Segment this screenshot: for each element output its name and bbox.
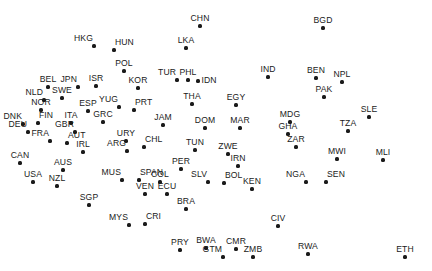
scatter-point-label: COL xyxy=(151,170,169,179)
scatter-point-label: PER xyxy=(172,157,190,166)
scatter-dot-marker xyxy=(86,109,89,112)
scatter-dot-marker xyxy=(81,150,84,153)
scatter-dot-marker xyxy=(346,129,349,132)
scatter-dot-marker xyxy=(112,48,115,51)
scatter-point-label: IDN xyxy=(202,76,217,85)
scatter-point-label: MWI xyxy=(328,147,346,156)
scatter-point-label: TUR xyxy=(158,68,176,77)
scatter-point-label: AUS xyxy=(54,158,72,167)
scatter-point-label: BRA xyxy=(177,197,195,206)
scatter-point-label: TZA xyxy=(340,119,357,128)
scatter-point-label: KEN xyxy=(243,177,261,186)
scatter-dot-marker xyxy=(321,26,324,29)
scatter-point-label: RWA xyxy=(298,242,318,251)
scatter-point-label: PRY xyxy=(171,238,189,247)
scatter-dot-marker xyxy=(179,167,182,170)
scatter-dot-marker xyxy=(304,180,307,183)
scatter-point-label: HKG xyxy=(74,34,93,43)
scatter-dot-marker xyxy=(190,102,193,105)
scatter-dot-marker xyxy=(206,180,209,183)
scatter-point-label: JPN xyxy=(60,75,77,84)
scatter-point-label: ESP xyxy=(79,99,97,108)
scatter-point-label: SLV xyxy=(191,170,207,179)
scatter-point-label: IRL xyxy=(76,140,90,149)
scatter-point-label: ZAR xyxy=(287,135,305,144)
scatter-point-label: KOR xyxy=(129,76,148,85)
scatter-point-label: YUG xyxy=(99,95,118,104)
scatter-point-label: MDG xyxy=(280,110,300,119)
scatter-point-label: GHA xyxy=(279,122,298,131)
scatter-dot-marker xyxy=(165,192,168,195)
scatter-dot-marker xyxy=(196,79,199,82)
scatter-point-label: GBR xyxy=(55,120,74,129)
scatter-dot-marker xyxy=(221,255,224,258)
scatter-dot-marker xyxy=(222,181,225,184)
scatter-dot-marker xyxy=(324,180,327,183)
scatter-point-label: MAR xyxy=(230,116,249,125)
scatter-point-label: URY xyxy=(117,129,135,138)
scatter-point-label: ETH xyxy=(396,245,414,254)
scatter-point-label: PAK xyxy=(316,85,333,94)
scatter-point-label: BGD xyxy=(314,16,333,25)
scatter-dot-marker xyxy=(266,75,269,78)
scatter-dot-marker xyxy=(87,203,90,206)
scatter-dot-marker xyxy=(193,148,196,151)
scatter-dot-marker xyxy=(314,76,317,79)
scatter-point-label: FRA xyxy=(32,129,50,138)
scatter-dot-marker xyxy=(65,141,68,144)
scatter-dot-marker xyxy=(367,115,370,118)
scatter-point-label: NZL xyxy=(49,174,66,183)
scatter-dot-marker xyxy=(76,85,79,88)
scatter-point-label: CIV xyxy=(271,214,286,223)
scatter-point-label: ISR xyxy=(89,74,104,83)
scatter-dot-marker xyxy=(226,152,229,155)
scatter-dot-marker xyxy=(335,157,338,160)
scatter-dot-marker xyxy=(238,126,241,129)
scatter-dot-marker xyxy=(92,44,95,47)
scatter-dot-marker xyxy=(184,46,187,49)
scatter-point-label: SEN xyxy=(327,170,345,179)
scatter-dot-marker xyxy=(203,126,206,129)
scatter-point-label: SGP xyxy=(80,193,98,202)
scatter-point-label: GRC xyxy=(93,110,112,119)
scatter-dot-marker xyxy=(125,149,128,152)
scatter-point-label: NPL xyxy=(333,70,350,79)
scatter-point-label: NGA xyxy=(286,170,305,179)
scatter-dot-marker xyxy=(18,161,21,164)
scatter-dot-marker xyxy=(60,96,63,99)
scatter-dot-marker xyxy=(251,255,254,258)
scatter-point-label: BEN xyxy=(307,66,325,75)
scatter-dot-marker xyxy=(31,180,34,183)
scatter-dot-marker xyxy=(55,184,58,187)
scatter-point-label: PRT xyxy=(135,98,152,107)
scatter-dot-marker xyxy=(186,78,189,81)
scatter-dot-marker xyxy=(117,105,120,108)
scatter-dot-marker xyxy=(36,121,39,124)
scatter-dot-marker xyxy=(142,145,145,148)
scatter-point-label: BEL xyxy=(40,75,57,84)
scatter-dot-marker xyxy=(143,192,146,195)
scatter-dot-marker xyxy=(120,178,123,181)
scatter-point-label: HUN xyxy=(115,38,134,47)
scatter-dot-marker xyxy=(250,187,253,190)
scatter-dot-marker xyxy=(175,78,178,81)
scatter-dot-marker xyxy=(403,255,406,258)
scatter-dot-marker xyxy=(306,252,309,255)
scatter-point-label: PHL xyxy=(179,68,196,77)
scatter-point-label: ARG xyxy=(107,139,126,148)
scatter-point-label: CHL xyxy=(145,135,163,144)
scatter-point-label: MLI xyxy=(376,148,391,157)
scatter-point-label: ZWE xyxy=(218,142,237,151)
scatter-dot-marker xyxy=(136,86,139,89)
scatter-point-label: POL xyxy=(115,59,133,68)
scatter-dot-marker xyxy=(234,247,237,250)
scatter-point-label: VEN xyxy=(136,182,154,191)
scatter-point-label: ECU xyxy=(158,182,176,191)
scatter-dot-marker xyxy=(340,80,343,83)
scatter-point-label: NLD xyxy=(26,88,44,97)
scatter-point-label: BOL xyxy=(225,171,243,180)
scatter-dot-marker xyxy=(381,158,384,161)
scatter-dot-marker xyxy=(94,84,97,87)
scatter-dot-marker xyxy=(101,120,104,123)
scatter-point-label: SWE xyxy=(52,86,72,95)
